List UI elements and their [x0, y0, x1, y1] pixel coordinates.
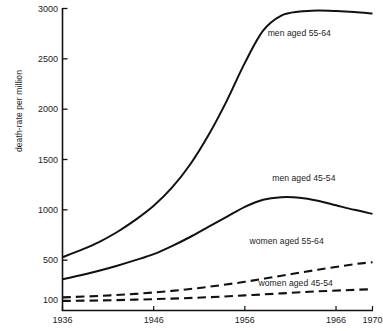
x-tick-label: 1970 [362, 315, 382, 325]
y-tick-label: 1000 [38, 205, 58, 215]
data-series-group [63, 10, 373, 300]
series-line-men-aged-45-54 [63, 197, 373, 279]
x-tick-label: 1946 [144, 315, 164, 325]
series-label-men-aged-55-64: men aged 55-64 [268, 28, 331, 38]
series-label-women-aged-45-54: women aged 45-54 [259, 278, 333, 288]
axes-group [62, 8, 373, 311]
y-tick-label: 2500 [38, 54, 58, 64]
series-label-women-aged-55-64: women aged 55-64 [249, 236, 323, 246]
y-tick-label: 1500 [38, 155, 58, 165]
y-tick-label: 100 [43, 295, 58, 305]
y-tick-label: 3000 [38, 4, 58, 14]
x-tick-label: 1936 [52, 315, 72, 325]
y-tick-label: 2000 [38, 104, 58, 114]
y-tick-label: 500 [43, 255, 58, 265]
y-axis-title: death-rate per million [14, 46, 24, 176]
x-tick-label: 1956 [235, 315, 255, 325]
series-label-men-aged-45-54: men aged 45-54 [272, 173, 335, 183]
series-line-men-aged-55-64 [63, 10, 373, 257]
x-tick-label: 1966 [326, 315, 346, 325]
